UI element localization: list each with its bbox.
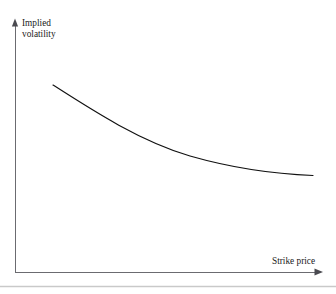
y-axis-label: Implied volatility [22, 18, 56, 39]
y-axis [12, 19, 18, 273]
x-axis-arrowhead-icon [315, 269, 324, 276]
implied-volatility-curve [53, 85, 313, 176]
x-axis-label: Strike price [272, 256, 315, 267]
figure-implied-volatility-skew: Implied volatility Strike price [0, 0, 336, 294]
chart-canvas [0, 0, 336, 294]
y-axis-label-line2: volatility [22, 29, 56, 40]
y-axis-label-line1: Implied [22, 18, 56, 29]
x-axis [15, 269, 323, 276]
y-axis-arrowhead-icon [12, 19, 18, 27]
